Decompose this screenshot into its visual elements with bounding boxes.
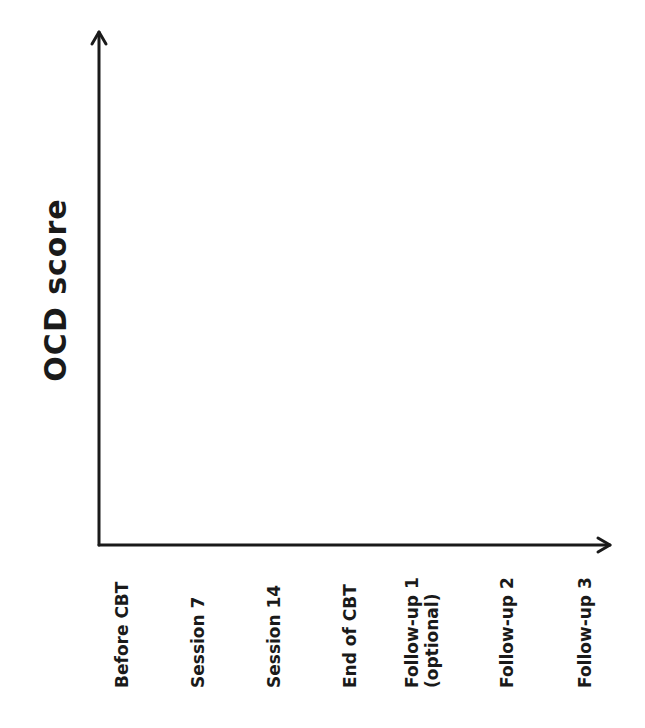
- x-tick-label: End of CBT: [340, 584, 360, 688]
- ocd-score-chart: OCD score Before CBT Session 7 Session 1…: [0, 0, 645, 728]
- x-tick-label: Follow-up 2: [497, 577, 517, 688]
- axes: [0, 0, 645, 728]
- x-tick-label: Follow-up 3: [575, 577, 595, 688]
- x-tick-label: Follow-up 1 (optional): [402, 577, 442, 688]
- y-axis-label: OCD score: [38, 198, 73, 381]
- x-tick-label: Session 14: [264, 585, 284, 688]
- x-tick-label: Session 7: [188, 597, 208, 688]
- x-tick-label: Before CBT: [112, 582, 132, 688]
